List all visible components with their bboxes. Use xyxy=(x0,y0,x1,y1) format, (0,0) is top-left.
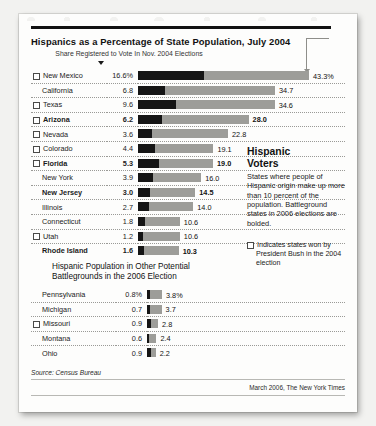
table-row: Pennsylvania0.8%3.8% xyxy=(31,288,345,302)
population-value: 10.3 xyxy=(183,247,197,256)
table-row: Nevada3.622.8 xyxy=(31,127,345,142)
registered-bar-segment xyxy=(138,173,153,182)
population-bar xyxy=(138,100,275,109)
table-row: Missouri0.92.8 xyxy=(31,317,345,332)
registered-share-value: 0.9 xyxy=(116,317,147,332)
population-bar xyxy=(138,202,193,211)
bar-cell: 22.8 xyxy=(138,127,345,142)
header-block: Hispanics as a Percentage of State Popul… xyxy=(31,36,345,57)
state-name: Utah xyxy=(43,232,58,241)
population-bar xyxy=(147,290,162,299)
sidebar-heading-line1: Hispanic xyxy=(247,146,290,157)
bush-state-checkbox-icon xyxy=(33,73,40,80)
credit-label: March 2006, The New York Times xyxy=(31,384,345,391)
population-value: 22.8 xyxy=(232,130,246,139)
bar-cell: 28.0 xyxy=(138,112,345,127)
registered-share-value: 6.2 xyxy=(107,112,138,127)
registered-bar-segment xyxy=(138,217,145,226)
registered-share-value: 2.7 xyxy=(107,200,138,215)
state-name: Missouri xyxy=(43,319,70,328)
population-value: 28.0 xyxy=(253,115,267,124)
state-name-cell: Nevada xyxy=(31,127,107,142)
footer: Source: Census Bureau March 2006, The Ne… xyxy=(31,369,345,396)
state-name-cell: New York xyxy=(31,171,107,186)
population-value: 10.6 xyxy=(184,232,198,241)
registered-bar-segment xyxy=(147,305,150,314)
total-leader-line xyxy=(306,38,329,69)
population-value: 34.7 xyxy=(279,86,293,95)
population-bar xyxy=(138,188,195,197)
bar-cell: 2.8 xyxy=(147,317,345,332)
state-name-cell: Missouri xyxy=(31,317,116,332)
state-name: Arizona xyxy=(43,115,70,124)
state-name: California xyxy=(42,86,73,95)
state-name: New Jersey xyxy=(42,188,82,197)
state-name: Montana xyxy=(42,334,70,343)
population-bar xyxy=(138,246,179,255)
registered-bar-segment xyxy=(138,246,144,255)
registered-share-value: 3.9 xyxy=(107,171,138,186)
legend-note-text: Indicates states won by President Bush i… xyxy=(256,241,341,267)
population-bar xyxy=(138,217,180,226)
section2-title-line2: Battlegrounds in the 2006 Election xyxy=(52,272,177,281)
registered-bar-segment xyxy=(147,334,149,343)
registered-bar-segment xyxy=(138,159,159,168)
state-name: Connecticut xyxy=(42,217,81,226)
table-row: Michigan0.73.7 xyxy=(31,302,345,317)
state-name: Illinois xyxy=(42,203,62,212)
state-name-cell: Pennsylvania xyxy=(31,288,116,302)
registered-bar-segment xyxy=(147,319,151,328)
population-value: 3.8% xyxy=(166,291,183,300)
bar-cell: 3.7 xyxy=(147,302,345,317)
population-value: 14.0 xyxy=(197,203,211,212)
sidebar-heading: Hispanic Voters xyxy=(247,146,347,169)
state-name: Michigan xyxy=(42,305,71,314)
registered-share-value: 0.6 xyxy=(116,331,147,346)
bush-state-checkbox-icon xyxy=(33,117,40,124)
registered-share-value: 1.2 xyxy=(107,229,138,244)
population-value: 43.3% xyxy=(313,72,334,81)
registered-share-value: 0.8% xyxy=(116,288,147,302)
state-name: New York xyxy=(42,173,73,182)
section2-title-line1: Hispanic Population in Other Potential xyxy=(52,262,190,271)
registered-bar-segment xyxy=(138,129,152,138)
table-row: Texas9.634.6 xyxy=(31,98,345,113)
state-name-cell: Colorado xyxy=(31,141,107,156)
bar-cell: 3.8% xyxy=(147,288,345,302)
table-row: Ohio0.92.2 xyxy=(31,346,345,360)
registered-bar-segment xyxy=(138,188,150,197)
population-value: 2.2 xyxy=(160,349,170,358)
state-name-cell: Rhode Island xyxy=(31,244,107,258)
table-row: Arizona6.228.0 xyxy=(31,112,345,127)
population-bar xyxy=(138,71,309,80)
state-name-cell: Montana xyxy=(31,331,116,346)
bush-state-checkbox-icon xyxy=(247,242,254,249)
bar-cell: 43.3% xyxy=(138,69,345,83)
state-name-cell: Texas xyxy=(31,98,107,113)
source-label: Source: Census Bureau xyxy=(31,369,345,376)
registered-bar-segment xyxy=(138,144,155,153)
bush-state-checkbox-icon xyxy=(33,102,40,109)
state-name: Pennsylvania xyxy=(42,290,85,299)
state-name: Ohio xyxy=(42,349,57,358)
sidebar: Hispanic Voters States where people of H… xyxy=(247,146,347,268)
table-row: New Mexico16.6%43.3% xyxy=(31,69,345,83)
state-name-cell: New Mexico xyxy=(31,69,107,83)
population-bar xyxy=(138,159,213,168)
population-value: 16.0 xyxy=(205,174,219,183)
sidebar-heading-line2: Voters xyxy=(247,158,279,169)
state-name: Colorado xyxy=(43,144,73,153)
population-value: 19.1 xyxy=(217,145,231,154)
population-value: 2.8 xyxy=(162,320,172,329)
bar-cell: 2.2 xyxy=(147,346,345,360)
state-name-cell: Illinois xyxy=(31,200,107,215)
table-row: Montana0.62.4 xyxy=(31,331,345,346)
population-bar xyxy=(138,129,228,138)
population-bar xyxy=(138,173,201,182)
population-bar xyxy=(147,305,162,314)
top-rule xyxy=(31,26,331,29)
population-value: 34.6 xyxy=(279,101,293,110)
state-name: Florida xyxy=(43,159,67,168)
state-name-cell: California xyxy=(31,83,107,98)
page-title: Hispanics as a Percentage of State Popul… xyxy=(31,36,345,47)
